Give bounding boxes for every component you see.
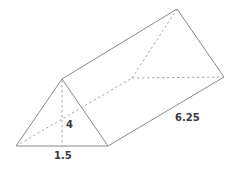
hidden-back-left-slope-edge xyxy=(132,9,177,78)
front-right-edge xyxy=(62,79,108,146)
top-ridge-edge xyxy=(62,9,177,79)
hidden-bottom-left-length-edge xyxy=(16,78,132,146)
hidden-back-base-edge xyxy=(132,77,224,78)
front-left-edge xyxy=(16,79,62,146)
hidden-edges xyxy=(16,9,224,146)
length-label: 6.25 xyxy=(175,112,200,123)
triangular-prism-diagram: 4 1.5 6.25 xyxy=(0,0,236,169)
height-label: 4 xyxy=(66,119,73,130)
back-right-slope-edge xyxy=(177,9,224,77)
base-label: 1.5 xyxy=(54,150,72,161)
bottom-right-length-edge xyxy=(108,77,224,146)
